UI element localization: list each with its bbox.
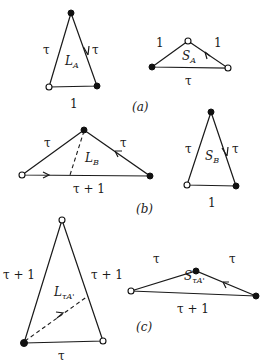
vertex-filled [149,64,155,70]
edge-label-base: τ + 1 [177,302,209,316]
edge-label-left: τ [185,142,192,156]
vertex-filled [81,127,87,133]
caption-b: (b) [136,202,153,216]
vertex-filled [208,109,214,115]
edge-label-base: 1 [208,196,216,210]
prototile-diagram: τ τ 1 LA 1 1 τ SA (a) τ τ τ + 1 LB [0,0,269,363]
vertex-filled [147,173,153,179]
edge-label-base: τ [58,349,65,363]
edge-label-right: τ [232,142,239,156]
triangle-L-A: τ τ 1 LA [43,10,100,111]
triangle-name: SA [182,49,196,65]
vertex-open [19,172,25,178]
edge-label-left: 1 [156,36,164,50]
caption-a: (a) [132,100,149,114]
vertex-open [59,217,65,223]
triangle-L-tauA: τ + 1 τ + 1 τ LτA' [3,217,123,363]
vertex-open [128,288,134,294]
vertex-filled [68,10,74,16]
edge-label-right: 1 [214,36,222,50]
vertex-filled [21,340,28,347]
triangle-name: SB [205,149,219,165]
edge-label-right: τ + 1 [91,268,123,282]
vertex-open [184,182,190,188]
edge-label-left: τ [153,252,160,266]
vertex-filled [94,83,100,89]
triangle-S-tauA: τ τ τ + 1 SτA' [128,252,259,316]
triangle-name: LA [64,54,79,70]
edge-label-left: τ + 1 [3,268,35,282]
dashed-line [25,296,88,341]
triangle-L-A-outline [49,13,97,87]
vertex-open [100,338,106,344]
vertex-filled [233,183,239,189]
triangle-S-A: 1 1 τ SA [149,36,231,88]
edge-label-right: τ [229,252,236,266]
vertex-open [225,65,231,71]
edge-label-left: τ [43,43,50,57]
triangle-S-B: τ τ 1 SB [184,109,239,210]
vertex-filled [253,293,259,299]
caption-c: (c) [136,320,152,334]
edge-label-base: 1 [70,97,78,111]
triangle-name: LB [84,151,99,167]
arrow-up-icon [205,52,210,59]
edge-label-base: τ + 1 [73,182,105,196]
vertex-open [185,38,191,44]
triangle-L-B: τ τ τ + 1 LB [19,127,153,196]
edge-label-right: τ [120,136,127,150]
vertex-filled [193,268,199,274]
edge-label-left: τ [44,136,51,150]
edge-label-base: τ [185,74,192,88]
dashed-line [70,131,84,175]
edge-label-right: τ [92,43,99,57]
triangle-name: LτA' [53,285,74,301]
vertex-open [46,84,52,90]
